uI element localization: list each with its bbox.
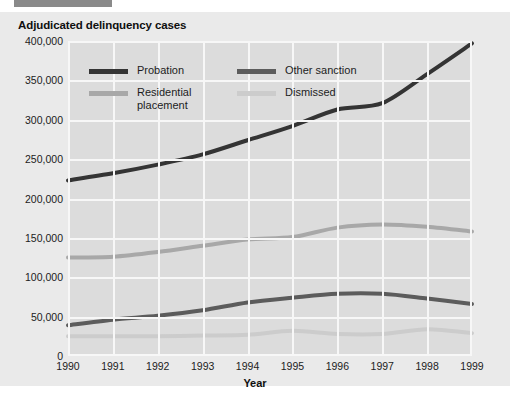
legend-entry: Probation bbox=[89, 64, 184, 77]
legend-swatch-icon bbox=[89, 69, 128, 74]
gridline-horizontal bbox=[68, 120, 472, 122]
y-axis-tick: 400,000 bbox=[25, 35, 63, 47]
x-axis-tick: 1990 bbox=[56, 360, 79, 372]
legend-label: Probation bbox=[137, 64, 184, 77]
gridline-horizontal bbox=[68, 199, 472, 201]
legend-entry: Dismissed bbox=[237, 86, 336, 99]
gridline-horizontal bbox=[68, 41, 472, 43]
gridline-horizontal bbox=[68, 354, 472, 356]
legend-swatch-icon bbox=[89, 91, 128, 96]
x-axis-tick: 1994 bbox=[236, 360, 259, 372]
series-line-other-sanction bbox=[68, 293, 472, 325]
chart-legend: ProbationOther sanctionResidential place… bbox=[89, 64, 379, 114]
y-axis-tick: 200,000 bbox=[25, 193, 63, 205]
x-axis-tick: 1998 bbox=[415, 360, 438, 372]
x-axis-tick: 1996 bbox=[326, 360, 349, 372]
legend-swatch-icon bbox=[237, 91, 276, 96]
legend-label: Dismissed bbox=[285, 86, 336, 99]
series-line-dismissed bbox=[68, 329, 472, 336]
y-axis-tick: 250,000 bbox=[25, 153, 63, 165]
x-axis-tick: 1995 bbox=[281, 360, 304, 372]
y-axis-tick: 100,000 bbox=[25, 271, 63, 283]
x-axis-title: Year bbox=[0, 377, 510, 389]
y-axis-tick-labels: 050,000100,000150,000200,000250,000300,0… bbox=[0, 41, 63, 356]
x-axis-tick: 1999 bbox=[460, 360, 483, 372]
x-axis-tick: 1993 bbox=[191, 360, 214, 372]
x-axis-tick-labels: 1990199119921993199419951996199719981999 bbox=[68, 360, 472, 376]
chart-figure-panel: Adjudicated delinquency cases 050,000100… bbox=[0, 12, 510, 386]
legend-entry: Other sanction bbox=[237, 64, 357, 77]
gridline-horizontal bbox=[68, 317, 472, 319]
y-axis-tick: 150,000 bbox=[25, 232, 63, 244]
legend-entry: Residential placement bbox=[89, 86, 191, 112]
header-accent-bar bbox=[14, 0, 112, 7]
y-axis-tick: 300,000 bbox=[25, 114, 63, 126]
y-axis-tick: 50,000 bbox=[31, 311, 63, 323]
x-axis-tick: 1997 bbox=[371, 360, 394, 372]
chart-title: Adjudicated delinquency cases bbox=[18, 19, 186, 31]
x-axis-tick: 1991 bbox=[101, 360, 124, 372]
series-line-residential-placement bbox=[68, 224, 472, 257]
gridline-horizontal bbox=[68, 159, 472, 161]
legend-label: Residential placement bbox=[137, 86, 191, 112]
y-axis-tick: 350,000 bbox=[25, 74, 63, 86]
x-axis-tick: 1992 bbox=[146, 360, 169, 372]
gridline-horizontal bbox=[68, 238, 472, 240]
legend-swatch-icon bbox=[237, 69, 276, 74]
gridline-horizontal bbox=[68, 277, 472, 279]
legend-label: Other sanction bbox=[285, 64, 357, 77]
